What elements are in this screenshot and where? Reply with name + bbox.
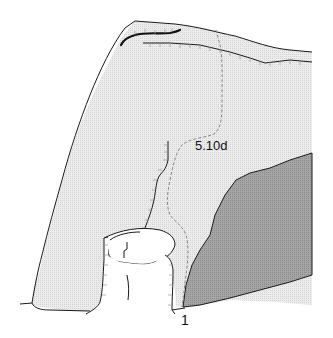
route-grade-label: 5.10d xyxy=(195,138,228,153)
start-marker-label: 1 xyxy=(181,312,189,328)
topo-diagram xyxy=(0,0,333,338)
start-ledge xyxy=(172,308,185,310)
